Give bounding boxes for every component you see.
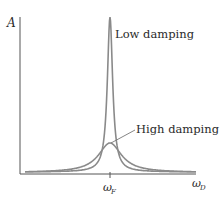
resonance-chart: A Low damping High damping ω F ω D [0, 0, 221, 203]
x-tick-label-sub: F [110, 188, 117, 196]
chart-svg: A Low damping High damping ω F ω D [0, 0, 221, 203]
low-damping-label: Low damping [115, 27, 195, 41]
high-damping-label: High damping [136, 122, 220, 136]
high-damping-curve [25, 143, 196, 172]
high-damping-leader-line [111, 130, 135, 143]
y-axis-label: A [6, 16, 16, 30]
x-axis-label-sub: D [199, 184, 206, 192]
